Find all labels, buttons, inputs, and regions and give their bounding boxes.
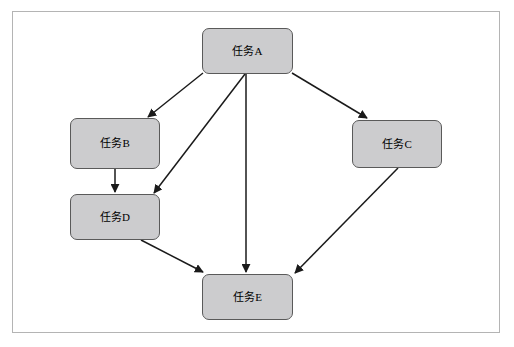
edge-a-to-c [292, 73, 367, 118]
diagram-canvas: 任务A 任务B 任务C 任务D 任务E [0, 0, 514, 347]
node-task-c[interactable]: 任务C [352, 120, 442, 168]
node-task-a[interactable]: 任务A [202, 28, 293, 74]
node-task-e[interactable]: 任务E [202, 274, 293, 320]
edge-a-to-b [148, 73, 203, 117]
edge-a-to-d [154, 74, 245, 193]
edge-c-to-e [295, 168, 398, 273]
node-task-c-label: 任务C [382, 138, 412, 149]
node-task-a-label: 任务A [232, 45, 263, 56]
node-task-b[interactable]: 任务B [70, 118, 160, 169]
edge-d-to-e [141, 240, 203, 272]
node-task-b-label: 任务B [100, 138, 130, 149]
node-task-d-label: 任务D [100, 211, 131, 222]
node-task-e-label: 任务E [233, 291, 262, 302]
node-task-d[interactable]: 任务D [70, 194, 160, 240]
